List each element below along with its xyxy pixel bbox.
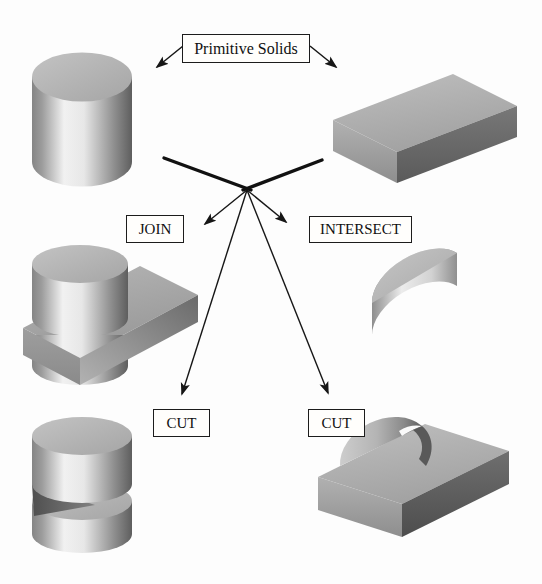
- primitive-solids-label: Primitive Solids: [182, 34, 310, 63]
- operation-arrows: [182, 190, 328, 394]
- cut-cylinder-result-solid: [32, 417, 132, 553]
- arrow-to-join: [205, 190, 247, 224]
- line-from-block: [243, 160, 322, 190]
- intersect-label: INTERSECT: [309, 216, 412, 243]
- intersect-result-solid: [372, 249, 457, 336]
- primitive-block-solid: [333, 74, 517, 183]
- csg-operations-diagram: Primitive Solids JOIN INTERSECT CUT CUT: [0, 0, 542, 584]
- primitive-cylinder-solid: [32, 53, 132, 187]
- arrow-to-block: [310, 46, 336, 67]
- line-from-cylinder: [164, 158, 251, 190]
- join-result-solid: [23, 245, 198, 385]
- diagram-artwork: [0, 0, 542, 584]
- join-label: JOIN: [126, 215, 184, 243]
- cut-cylinder-label: CUT: [153, 409, 210, 437]
- converging-lines: [164, 158, 322, 190]
- arrow-to-cylinder: [157, 46, 183, 67]
- cut-block-label: CUT: [308, 409, 365, 437]
